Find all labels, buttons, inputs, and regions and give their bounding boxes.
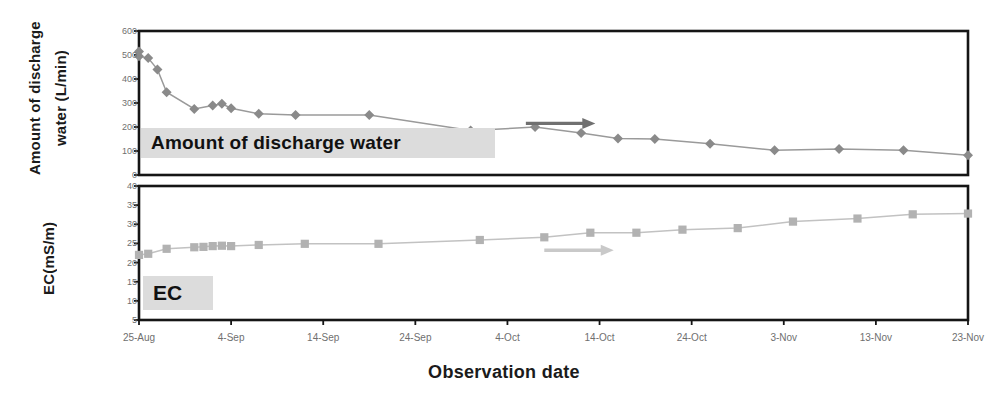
panel-caption-ec-text: EC	[153, 281, 182, 305]
x-tick-label: 24-Oct	[677, 332, 707, 343]
data-point-ec-5	[209, 242, 217, 250]
data-point-ec-9	[301, 240, 309, 248]
y-axis-title-discharge-text: Amount of discharge water (L/min)	[26, 21, 69, 175]
y-tick-label-ec: 15	[127, 277, 137, 287]
data-point-ec-15	[678, 226, 686, 234]
data-point-discharge-20	[899, 145, 909, 155]
x-tick-label: 23-Nov	[952, 332, 984, 343]
data-point-discharge-19	[834, 144, 844, 154]
trend-arrow-ec-0	[544, 245, 613, 256]
y-tick-label-ec: 30	[127, 219, 137, 229]
data-point-ec-3	[190, 243, 198, 251]
y-axis-title-discharge: Amount of discharge water (L/min)	[22, 18, 82, 178]
x-axis-title: Observation date	[0, 362, 1008, 383]
data-point-discharge-5	[189, 104, 199, 114]
data-point-ec-14	[632, 229, 640, 237]
data-point-discharge-15	[613, 134, 623, 144]
data-point-discharge-9	[254, 109, 264, 119]
x-tick-label: 4-Oct	[495, 332, 519, 343]
panel-frame-ec	[139, 186, 968, 320]
y-tick-label-ec: 35	[127, 200, 137, 210]
data-point-ec-17	[789, 218, 797, 226]
y-tick-label-ec: 20	[127, 258, 137, 268]
x-tick-label: 25-Aug	[123, 332, 155, 343]
data-point-ec-4	[199, 243, 207, 251]
data-point-ec-12	[540, 233, 548, 241]
y-tick-label-ec: 40	[127, 181, 137, 191]
x-tick-label: 3-Nov	[770, 332, 797, 343]
data-point-ec-19	[909, 210, 917, 218]
data-point-ec-20	[964, 209, 972, 217]
data-point-ec-11	[476, 236, 484, 244]
panel-caption-discharge: Amount of discharge water	[141, 128, 495, 158]
data-point-discharge-16	[650, 134, 660, 144]
panel-caption-discharge-text: Amount of discharge water	[151, 132, 401, 154]
y-tick-label-ec: 5	[132, 315, 137, 325]
data-point-ec-6	[218, 242, 226, 250]
figure-root: Amount of discharge water (L/min) EC(mS/…	[0, 0, 1008, 404]
data-point-discharge-7	[217, 99, 227, 109]
data-point-ec-7	[227, 242, 235, 250]
data-point-discharge-10	[291, 110, 301, 120]
panel-ec	[134, 186, 972, 325]
x-axis-title-text: Observation date	[428, 362, 580, 382]
y-axis-title-ec-text: EC(mS/m)	[40, 222, 57, 295]
data-point-discharge-4	[162, 87, 172, 97]
data-point-discharge-18	[770, 145, 780, 155]
data-point-discharge-11	[364, 110, 374, 120]
x-tick-label: 14-Oct	[585, 332, 615, 343]
data-point-discharge-14	[576, 128, 586, 138]
data-point-ec-13	[586, 229, 594, 237]
data-point-ec-10	[374, 240, 382, 248]
x-tick-label: 13-Nov	[860, 332, 892, 343]
y-axis-title-ec: EC(mS/m)	[40, 196, 66, 321]
chart-canvas	[0, 0, 1008, 404]
data-point-ec-16	[734, 224, 742, 232]
data-point-discharge-21	[963, 150, 973, 160]
data-point-ec-1	[144, 250, 152, 258]
data-point-ec-8	[255, 241, 263, 249]
x-tick-label: 14-Sep	[307, 332, 339, 343]
data-point-discharge-17	[705, 139, 715, 149]
panel-caption-ec: EC	[143, 276, 213, 310]
data-point-ec-18	[853, 214, 861, 222]
x-tick-label: 4-Sep	[218, 332, 245, 343]
data-point-ec-2	[163, 245, 171, 253]
y-axis-tick-labels-ec: 510152025303540	[97, 0, 137, 404]
data-point-discharge-8	[226, 103, 236, 113]
x-tick-label: 24-Sep	[399, 332, 431, 343]
y-tick-label-ec: 10	[127, 296, 137, 306]
data-point-discharge-6	[208, 100, 218, 110]
y-tick-label-ec: 25	[127, 238, 137, 248]
